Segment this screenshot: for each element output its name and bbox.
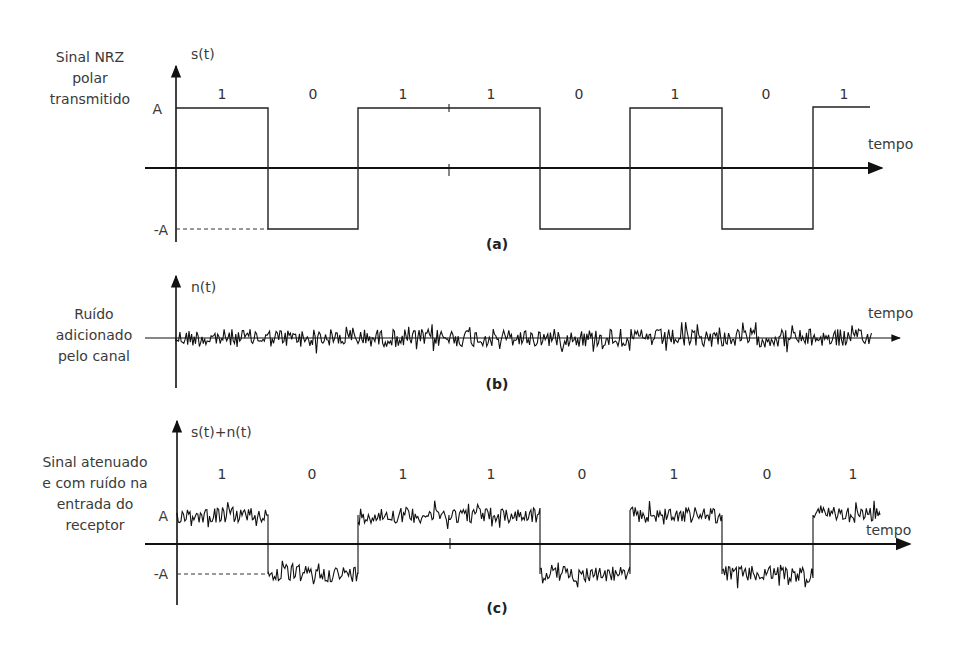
bit-label: 1 <box>671 86 680 102</box>
bit-label: 0 <box>578 466 587 482</box>
panel-caption: (c) <box>486 600 507 616</box>
y-axis-label: s(t) <box>191 46 215 62</box>
bit-label: 0 <box>575 86 584 102</box>
y-axis-label: s(t)+n(t) <box>191 424 252 440</box>
side-label-line: Sinal NRZ <box>56 49 124 65</box>
bit-label: 1 <box>218 86 227 102</box>
side-label-line: transmitido <box>50 91 130 107</box>
level-high-label: A <box>152 101 162 117</box>
bit-label: 1 <box>849 466 858 482</box>
nrz-noise-figure: Sinal NRZ polar transmitido s(t) tempo A… <box>0 0 961 645</box>
side-label-line: Ruído <box>74 306 113 322</box>
side-label-line: pelo canal <box>58 348 130 364</box>
bit-labels: 1 0 1 1 0 1 0 1 <box>218 86 849 102</box>
y-axis-label: n(t) <box>191 279 216 295</box>
side-label-line: entrada do <box>57 496 134 512</box>
side-label-line: adicionado <box>56 327 132 343</box>
level-low-label: -A <box>154 566 169 582</box>
side-label-line: polar <box>72 70 108 86</box>
panel-b: Ruído adicionado pelo canal n(t) tempo (… <box>56 276 913 392</box>
x-axis-label: tempo <box>868 136 913 152</box>
bit-label: 1 <box>399 466 408 482</box>
bit-label: 0 <box>309 86 318 102</box>
panel-caption: (b) <box>486 376 509 392</box>
bit-labels: 1 0 1 1 0 1 0 1 <box>218 466 858 482</box>
panel-a-side-label: Sinal NRZ polar transmitido <box>50 49 130 107</box>
bit-label: 1 <box>670 466 679 482</box>
panel-b-side-label: Ruído adicionado pelo canal <box>56 306 132 364</box>
bit-label: 1 <box>487 86 496 102</box>
panel-a: Sinal NRZ polar transmitido s(t) tempo A… <box>50 46 913 252</box>
bit-label: 1 <box>840 86 849 102</box>
level-high-label: A <box>158 508 168 524</box>
bit-label: 0 <box>308 466 317 482</box>
x-axis-label: tempo <box>866 522 911 538</box>
x-axis-label: tempo <box>868 305 913 321</box>
side-label-line: e com ruído na <box>42 475 147 491</box>
side-label-line: Sinal atenuado <box>42 454 147 470</box>
bit-label: 1 <box>487 466 496 482</box>
level-low-label: -A <box>154 222 169 238</box>
bit-label: 0 <box>763 466 772 482</box>
bit-label: 1 <box>399 86 408 102</box>
panel-c-side-label: Sinal atenuado e com ruído na entrada do… <box>42 454 147 533</box>
side-label-line: receptor <box>65 517 124 533</box>
panel-c: Sinal atenuado e com ruído na entrada do… <box>42 421 911 616</box>
panel-caption: (a) <box>486 236 508 252</box>
bit-label: 0 <box>762 86 771 102</box>
bit-label: 1 <box>218 466 227 482</box>
